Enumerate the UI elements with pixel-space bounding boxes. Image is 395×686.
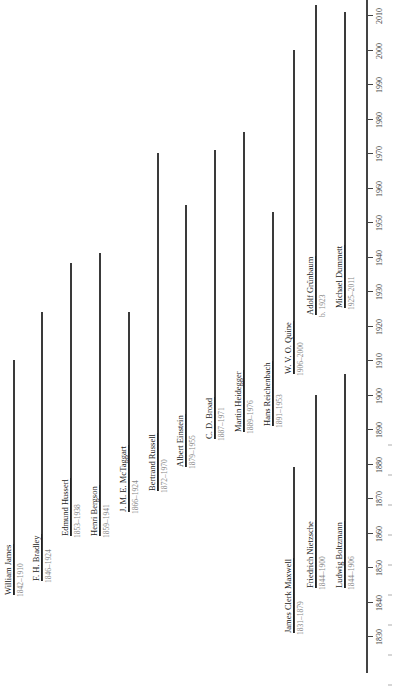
philosopher-dates: 1859–1941: [102, 504, 111, 538]
axis-tick: [366, 153, 373, 154]
axis-tick: [366, 360, 373, 361]
axis-tick-label: 1940: [375, 250, 384, 266]
philosopher-dates: b. 1923: [318, 295, 327, 318]
philosopher-dates: 1844–1906: [347, 556, 356, 590]
philosopher-dates: 1906–2000: [296, 342, 305, 376]
axis-tick: [366, 257, 373, 258]
philosopher-name: William James: [3, 543, 14, 594]
axis-tick-label: 1950: [375, 215, 384, 231]
philosopher-name: J. M. E. McTaggart: [118, 445, 129, 512]
axis-tick-label: 1840: [375, 595, 384, 611]
axis-tick-label: 1930: [375, 284, 384, 300]
philosopher-name: Edmund Husserl: [60, 478, 71, 536]
axis-tick: [366, 15, 373, 16]
philosopher-name: Ludwig Boltzmann: [334, 521, 345, 588]
axis-tick-label: 1860: [375, 526, 384, 542]
axis-tick-label: 1920: [375, 319, 384, 335]
axis-tick: [366, 567, 373, 568]
axis-tick: [366, 222, 373, 223]
axis-tick-label: 2000: [375, 43, 384, 59]
cut-off-caption: [388, 430, 392, 686]
axis-tick-label: 1870: [375, 491, 384, 507]
axis-tick: [366, 326, 373, 327]
axis-tick: [366, 119, 373, 120]
philosopher-name: Michael Dummett: [334, 245, 345, 308]
timeline-chart: 1830184018501860187018801890190019101920…: [0, 0, 395, 686]
philosopher-dates: 1891–1953: [275, 394, 284, 428]
lifespan-bar: [214, 150, 216, 440]
axis-tick: [366, 498, 373, 499]
axis-tick: [366, 395, 373, 396]
philosopher-name: F. H. Bradley: [31, 534, 42, 581]
axis-tick-label: 1830: [375, 629, 384, 645]
axis-tick: [366, 291, 373, 292]
philosopher-dates: 1866–1924: [131, 480, 140, 514]
philosopher-name: Friedrich Nietzsche: [305, 520, 316, 588]
axis-tick-label: 1970: [375, 146, 384, 162]
philosopher-name: W. V. O. Quine: [283, 321, 294, 374]
axis-tick: [366, 188, 373, 189]
philosopher-name: C. D. Broad: [204, 397, 215, 439]
philosopher-name: Adolf Grünbaum: [305, 256, 316, 315]
axis-tick-label: 1910: [375, 353, 384, 369]
axis-tick-label: 1990: [375, 77, 384, 93]
philosopher-dates: 1889–1976: [246, 401, 255, 435]
philosopher-dates: 1844–1900: [318, 556, 327, 590]
philosopher-name: Hans Reichenbach: [262, 361, 273, 426]
philosopher-dates: 1879–1955: [188, 435, 197, 469]
philosopher-dates: 1846–1924: [44, 549, 53, 583]
axis-tick: [366, 636, 373, 637]
axis-tick: [366, 84, 373, 85]
axis-tick-label: 1980: [375, 112, 384, 128]
axis-tick-label: 2010: [375, 8, 384, 24]
philosopher-dates: 1887–1971: [217, 408, 226, 442]
axis-tick-label: 1960: [375, 181, 384, 197]
axis-tick: [366, 602, 373, 603]
philosopher-name: Albert Einstein: [175, 414, 186, 467]
philosopher-name: Martin Heidegger: [233, 371, 244, 433]
philosopher-name: James Clerk Maxwell: [283, 557, 294, 632]
axis-tick-label: 1890: [375, 422, 384, 438]
philosopher-name: Henri Bergson: [89, 485, 100, 536]
philosopher-dates: 1842–1910: [16, 563, 25, 597]
axis-tick-label: 1900: [375, 388, 384, 404]
philosopher-dates: 1925–2011: [347, 277, 356, 310]
axis-tick-label: 1880: [375, 457, 384, 473]
year-axis: [366, 0, 368, 673]
axis-tick: [366, 464, 373, 465]
axis-tick: [366, 429, 373, 430]
axis-tick: [366, 533, 373, 534]
philosopher-dates: 1872–1970: [160, 459, 169, 493]
philosopher-dates: 1831–1879: [296, 601, 305, 635]
philosopher-dates: 1853–1938: [73, 504, 82, 538]
philosopher-name: Bertrand Russell: [147, 433, 158, 491]
axis-tick-label: 1850: [375, 560, 384, 576]
axis-tick: [366, 50, 373, 51]
